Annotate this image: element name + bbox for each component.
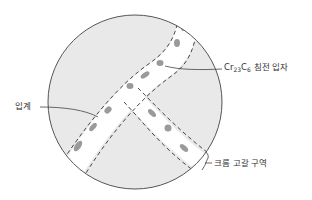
label-depleted-zone: 크롬 고갈 구역 (214, 159, 267, 168)
micrograph-diagram (0, 0, 312, 200)
label-precipitate: Cr23C6 침전 입자 (224, 63, 288, 73)
label-grain-boundary: 입계 (15, 102, 31, 111)
